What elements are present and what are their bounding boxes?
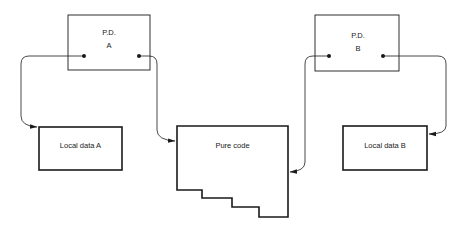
edge-pd-b-to-local-b (383, 56, 446, 134)
edge-pd-a-to-pure-code (139, 56, 175, 141)
pd-a-subtitle: A (68, 42, 150, 50)
pd-b-title: P.D. (316, 32, 400, 40)
pure-code-label: Pure code (177, 142, 288, 150)
local-data-b-label: Local data B (343, 142, 427, 150)
pd-b-subtitle: B (316, 45, 400, 53)
local-data-a-label: Local data A (39, 142, 122, 150)
pure-code-shape (177, 126, 288, 217)
edge-pd-a-to-local-a (21, 56, 84, 127)
edge-pd-b-to-pure-code (290, 56, 329, 172)
pd-a-title: P.D. (68, 29, 150, 37)
pd-b-box (315, 15, 399, 71)
